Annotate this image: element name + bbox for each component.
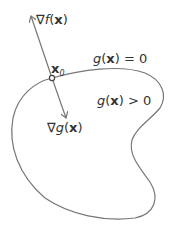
label-boundary: g(x) = 0 — [93, 52, 147, 65]
label-interior: g(x) > 0 — [97, 94, 151, 107]
label-grad-f: ∇f(x) — [36, 13, 68, 26]
label-grad-g: ∇g(x) — [47, 121, 83, 134]
constraint-diagram — [0, 0, 178, 232]
constraint-region-boundary — [12, 69, 164, 220]
label-point-x0: x0 — [51, 62, 64, 78]
grad-g-arrow — [52, 78, 66, 118]
